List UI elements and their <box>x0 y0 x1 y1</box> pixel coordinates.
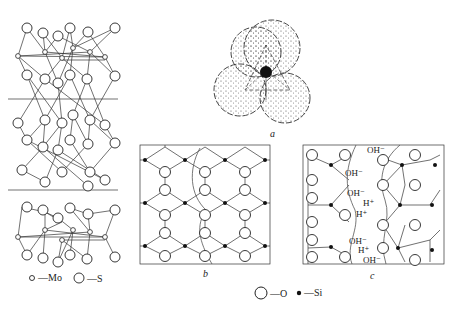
ion-label: H⁺ <box>356 209 367 219</box>
legend-s: —S <box>73 272 103 284</box>
large-open-circle-icon <box>254 286 268 300</box>
tetrahedron-figure <box>214 20 310 123</box>
ion-label: OH⁻ <box>347 188 365 198</box>
legend-mo: —Mo <box>28 272 62 283</box>
panel-label-a: a <box>270 128 275 139</box>
s-atoms <box>13 23 120 267</box>
panel-label-b: b <box>203 268 208 279</box>
ion-label: OH⁻ <box>345 168 363 178</box>
ion-label: OH⁻ <box>363 255 381 265</box>
ion-label: H⁺ <box>363 198 374 208</box>
small-open-circle-icon <box>28 274 36 282</box>
mos2-structure <box>8 28 118 262</box>
large-open-circle-icon <box>73 272 85 284</box>
ion-label: OH⁻ <box>367 145 385 155</box>
legend-si: —Si <box>296 287 322 298</box>
silica-lattice-b <box>140 145 270 264</box>
ion-label: H⁺ <box>358 245 369 255</box>
panel-label-c: c <box>370 270 374 281</box>
small-filled-circle-icon <box>296 290 302 296</box>
legend-o: —O <box>254 286 287 300</box>
